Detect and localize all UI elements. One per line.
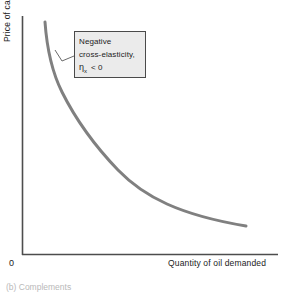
- y-axis-title: Price of cars: [0, 0, 14, 42]
- annotation-line-2: cross-elasticity,: [79, 48, 145, 61]
- x-axis-title: Quantity of oil demanded: [168, 258, 266, 268]
- annotation-line-1: Negative: [79, 35, 145, 48]
- eta-relation: < 0: [91, 63, 102, 72]
- figure-caption: (b) Complements: [6, 283, 126, 292]
- origin-label: 0: [9, 258, 14, 268]
- callout-leader-line: [55, 50, 74, 61]
- cross-elasticity-chart: Price of cars Quantity of oil demanded 0…: [0, 0, 285, 292]
- annotation-callout-box: Negative cross-elasticity, ηx< 0: [74, 31, 146, 78]
- eta-subscript: x: [84, 68, 87, 74]
- annotation-line-3: ηx< 0: [79, 61, 145, 78]
